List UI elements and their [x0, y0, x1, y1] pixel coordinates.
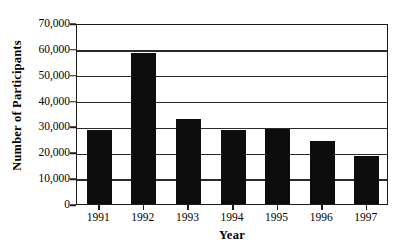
x-tick-label: 1993 — [164, 211, 210, 223]
gridline — [77, 50, 387, 51]
x-tick-label: 1992 — [120, 211, 166, 223]
x-tick-mark — [277, 205, 279, 210]
plot-area — [76, 24, 388, 205]
y-tick-label: 50,000 — [10, 70, 70, 82]
y-tick-label: 60,000 — [10, 44, 70, 56]
x-tick-label: 1994 — [209, 211, 255, 223]
x-tick-mark — [143, 205, 145, 210]
bar — [265, 129, 290, 204]
x-tick-mark — [321, 205, 323, 210]
bar — [131, 53, 156, 204]
bar — [354, 156, 379, 204]
y-tick-label: 20,000 — [10, 148, 70, 160]
bar — [310, 141, 335, 204]
x-tick-mark — [366, 205, 368, 210]
x-tick-mark — [232, 205, 234, 210]
bar — [176, 119, 201, 204]
gridline — [77, 102, 387, 103]
gridline — [77, 76, 387, 77]
bar — [221, 130, 246, 204]
x-tick-mark — [187, 205, 189, 210]
x-tick-label: 1996 — [298, 211, 344, 223]
y-tick-label: 30,000 — [10, 122, 70, 134]
y-tick-label: 40,000 — [10, 96, 70, 108]
x-tick-mark — [98, 205, 100, 210]
x-axis-title: Year — [76, 228, 388, 243]
x-tick-label: 1995 — [254, 211, 300, 223]
gridline — [77, 128, 387, 129]
bar-chart: Number of Participants 010,00020,00030,0… — [0, 0, 411, 251]
y-tick-label: 70,000 — [10, 18, 70, 30]
x-tick-label: 1991 — [75, 211, 121, 223]
bar — [87, 130, 112, 204]
x-tick-label: 1997 — [343, 211, 389, 223]
y-tick-label: 10,000 — [10, 173, 70, 185]
y-tick-label: 0 — [10, 199, 70, 211]
